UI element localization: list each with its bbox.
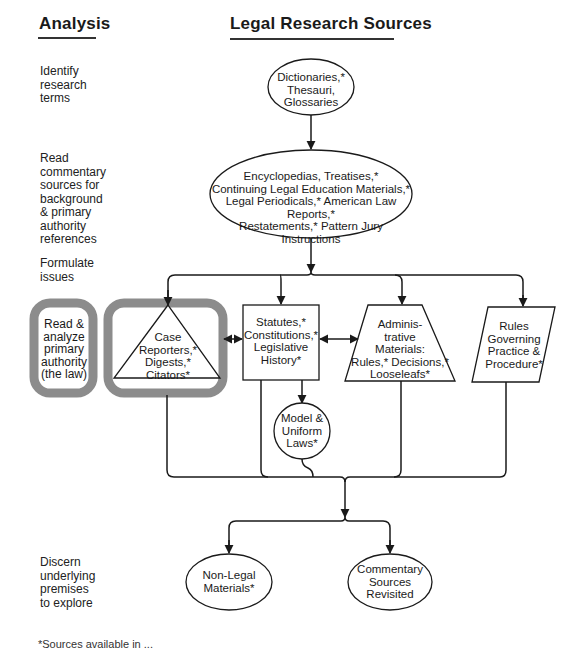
administrative-node: Adminis- trative Materials: Rules,* Deci… bbox=[345, 318, 455, 381]
footnote: *Sources available in ... bbox=[38, 638, 153, 650]
rules-node: Rules Governing Practice & Procedure* bbox=[475, 320, 553, 370]
model-node: Model & Uniform Laws* bbox=[274, 412, 330, 450]
commentary-node: Commentary Sources Revisited bbox=[348, 563, 432, 601]
case-node: Case Reporters,* Digests,* Citators* bbox=[128, 331, 208, 381]
step-read-analyze: Read & analyze primary authority (the la… bbox=[36, 318, 92, 381]
dictionaries-node: Dictionaries,* Thesauri, Glossaries bbox=[268, 71, 354, 109]
nonlegal-node: Non-Legal Materials* bbox=[186, 569, 272, 594]
statutes-node: Statutes,* Constitutions,* Legislative H… bbox=[243, 316, 319, 366]
encyclopedias-node: Encyclopedias, Treatises,* Continuing Le… bbox=[210, 170, 412, 245]
